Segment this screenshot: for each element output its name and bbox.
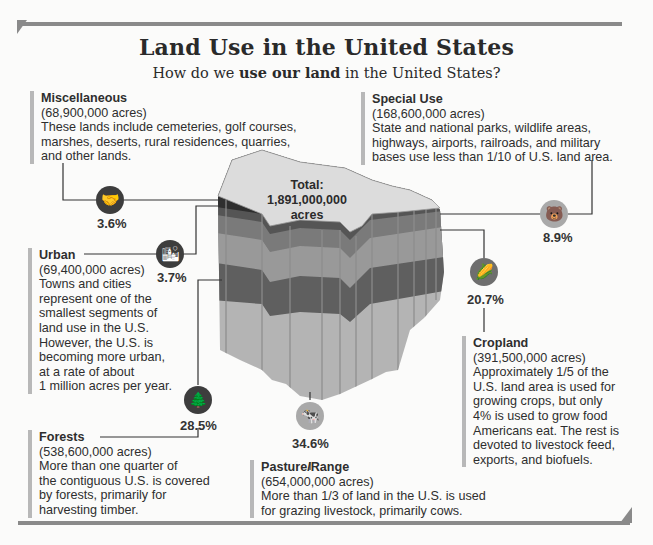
miscellaneous-callout: Miscellaneous (68,900,000 acres) These l… (30, 91, 297, 164)
city-skyline-icon: 🏙 (156, 240, 184, 268)
handshake-icon: 🤝 (96, 186, 124, 214)
special-use-percent: 8.9% (543, 230, 573, 245)
urban-heading: Urban (39, 248, 172, 263)
corn-icon: 🌽 (470, 258, 498, 286)
pasture-range-acres: (654,000,000 acres) (261, 475, 486, 490)
urban-callout: Urban (69,400,000 acres) Towns and citie… (28, 248, 172, 394)
cropland-percent: 20.7% (467, 292, 504, 307)
special-use-heading: Special Use (372, 92, 613, 107)
special-use-acres: (168,600,000 acres) (372, 107, 613, 122)
bear-icon: 🐻 (540, 200, 568, 228)
forests-percent: 28.5% (180, 418, 217, 433)
miscellaneous-heading: Miscellaneous (41, 91, 297, 106)
miscellaneous-percent: 3.6% (97, 216, 127, 231)
urban-percent: 3.7% (157, 270, 187, 285)
bottom-corner-decoration (620, 507, 632, 523)
pasture-range-heading: Pasture/Range (261, 460, 486, 475)
special-use-callout: Special Use (168,600,000 acres) State an… (361, 92, 613, 165)
pasture-range-percent: 34.6% (292, 436, 329, 451)
forests-acres: (538,600,000 acres) (39, 445, 210, 460)
cropland-acres: (391,500,000 acres) (473, 351, 619, 366)
bottom-rule (18, 521, 630, 525)
forests-callout: Forests (538,600,000 acres) More than on… (28, 430, 210, 518)
cow-icon: 🐄 (296, 402, 324, 430)
map-total-label: Total: 1,891,000,000 acres (252, 178, 362, 223)
urban-acres: (69,400,000 acres) (39, 263, 172, 278)
tree-icon: 🌲 (184, 386, 212, 414)
pasture-range-callout: Pasture/Range (654,000,000 acres) More t… (250, 460, 486, 518)
cropland-heading: Cropland (473, 336, 619, 351)
cropland-callout: Cropland (391,500,000 acres) Approximate… (462, 336, 619, 467)
miscellaneous-acres: (68,900,000 acres) (41, 106, 297, 121)
